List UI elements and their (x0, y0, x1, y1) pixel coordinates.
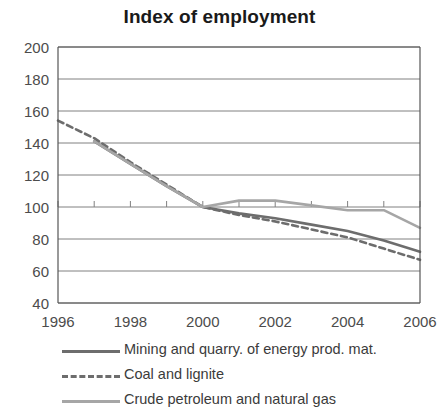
y-tick-label-60: 60 (32, 263, 49, 280)
plot-area: 406080100120140160180200 199619982000200… (0, 0, 439, 340)
x-tick-label-2004: 2004 (331, 313, 364, 330)
legend-item-crude: Crude petroleum and natural gas (62, 387, 439, 412)
y-tick-label-80: 80 (32, 231, 49, 248)
chart-container: Index of employment 40608010012014016018… (0, 0, 439, 420)
legend-swatch-dashed-line-icon (62, 369, 120, 381)
x-tick-label-2000: 2000 (186, 313, 219, 330)
x-tick-label-1996: 1996 (41, 313, 74, 330)
y-tick-label-180: 180 (24, 71, 49, 88)
legend-item-mining: Mining and quarry. of energy prod. mat. (62, 337, 439, 362)
y-axis-tick-labels: 406080100120140160180200 (24, 39, 49, 312)
series-line-0 (94, 141, 420, 251)
gridlines-group (58, 47, 420, 303)
legend-label-coal: Coal and lignite (124, 367, 224, 382)
legend-swatch-light-line-icon (62, 394, 120, 406)
y-tick-label-160: 160 (24, 103, 49, 120)
legend-swatch-solid-line-icon (62, 344, 120, 356)
y-tick-label-200: 200 (24, 39, 49, 56)
x-tick-label-2006: 2006 (403, 313, 436, 330)
chart-legend: Mining and quarry. of energy prod. mat. … (0, 337, 439, 412)
y-tick-label-120: 120 (24, 167, 49, 184)
y-tick-label-140: 140 (24, 135, 49, 152)
chart-svg: 406080100120140160180200 199619982000200… (0, 0, 439, 340)
legend-label-mining: Mining and quarry. of energy prod. mat. (124, 342, 377, 357)
legend-item-coal: Coal and lignite (62, 362, 439, 387)
legend-label-crude: Crude petroleum and natural gas (124, 392, 336, 407)
y-tick-label-40: 40 (32, 295, 49, 312)
x-tick-label-1998: 1998 (114, 313, 147, 330)
x-axis-tick-labels: 199619982000200220042006 (41, 313, 436, 330)
y-tick-label-100: 100 (24, 199, 49, 216)
x-tick-label-2002: 2002 (259, 313, 292, 330)
